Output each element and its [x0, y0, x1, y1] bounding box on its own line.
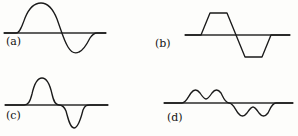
- panel-label-b: (b): [155, 38, 171, 49]
- waveform-figure: (a) (b) (c) (d): [0, 0, 298, 136]
- panel-label-d: (d): [167, 112, 183, 123]
- waveform-panel-b: (b): [149, 0, 298, 68]
- panel-label-a: (a): [6, 36, 21, 47]
- panel-label-c: (c): [6, 110, 21, 121]
- waveform-panel-d: (d): [149, 68, 298, 136]
- waveform-svg-c: [0, 68, 149, 136]
- waveform-panel-c: (c): [0, 68, 149, 136]
- waveform-svg-b: [149, 0, 298, 68]
- waveform-svg-d: [149, 68, 298, 136]
- waveform-panel-a: (a): [0, 0, 149, 68]
- waveform-svg-a: [0, 0, 149, 68]
